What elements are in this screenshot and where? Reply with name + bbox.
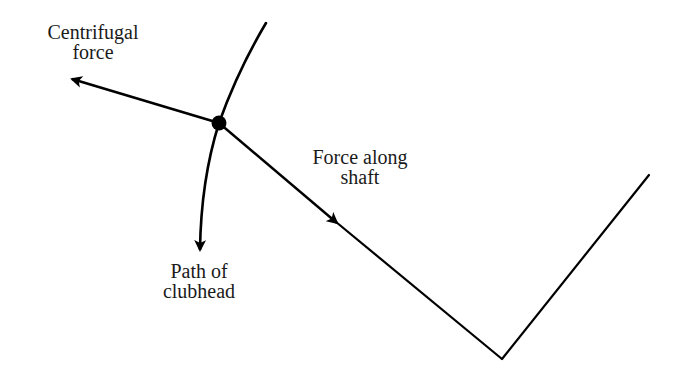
centrifugal-force-label-line1: Centrifugal <box>33 22 153 42</box>
clubhead-path-arrow <box>200 123 219 250</box>
clubhead-path-upper-curve <box>219 23 266 123</box>
club-shaft-line <box>330 217 502 359</box>
clubhead-point <box>212 116 227 131</box>
shaft-force-label-line2: shaft <box>296 167 424 187</box>
centrifugal-force-arrow <box>72 79 219 123</box>
clubhead-path-label-line2: clubhead <box>148 281 250 301</box>
clubhead-path-label-line1: Path of <box>148 261 250 281</box>
arm-line <box>502 175 649 359</box>
shaft-force-label: Force along shaft <box>296 147 424 187</box>
shaft-force-label-line1: Force along <box>296 147 424 167</box>
centrifugal-force-label-line2: force <box>33 42 153 62</box>
centrifugal-force-label: Centrifugal force <box>33 22 153 62</box>
clubhead-path-label: Path of clubhead <box>148 261 250 301</box>
